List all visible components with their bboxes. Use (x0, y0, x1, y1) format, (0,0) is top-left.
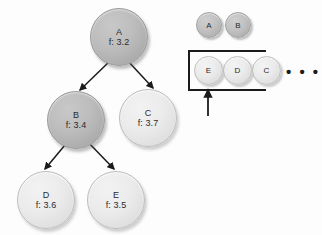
explored-chip-b[interactable]: B (225, 12, 251, 38)
edge-a-b (80, 60, 111, 90)
tree-node-d[interactable]: D f: 3.6 (17, 171, 75, 229)
queue-box-top-edge (188, 50, 266, 52)
tree-node-a[interactable]: A f: 3.2 (90, 8, 148, 66)
tree-node-e-label: E (113, 190, 119, 200)
frontier-chip-d[interactable]: D (223, 56, 252, 85)
tree-node-e[interactable]: E f: 3.5 (87, 171, 145, 229)
tree-node-e-fvalue: f: 3.5 (106, 200, 127, 210)
queue-box-bottom-edge (188, 89, 266, 91)
tree-node-c-label: C (145, 108, 152, 118)
explored-chip-a-label: A (206, 21, 211, 30)
tree-node-c-fvalue: f: 3.7 (138, 118, 159, 128)
tree-node-b[interactable]: B f: 3.4 (47, 91, 105, 149)
explored-chip-a[interactable]: A (196, 12, 222, 38)
tree-node-b-label: B (73, 110, 79, 120)
tree-node-b-fvalue: f: 3.4 (66, 120, 87, 130)
frontier-chip-c[interactable]: C (252, 56, 281, 85)
explored-chip-b-label: B (235, 21, 240, 30)
tree-node-d-fvalue: f: 3.6 (36, 200, 57, 210)
diagram-canvas: A f: 3.2 B f: 3.4 C f: 3.7 D f: 3.6 E f:… (0, 0, 322, 235)
tree-node-d-label: D (43, 190, 50, 200)
frontier-chip-d-label: D (235, 66, 241, 75)
frontier-ellipsis: • • • (286, 64, 320, 79)
queue-box-left-edge (188, 50, 190, 91)
edge-a-c (127, 60, 153, 88)
tree-node-a-label: A (116, 27, 122, 37)
frontier-chip-e[interactable]: E (194, 56, 223, 85)
tree-node-c[interactable]: C f: 3.7 (119, 89, 177, 147)
tree-node-a-fvalue: f: 3.2 (109, 37, 130, 47)
frontier-chip-c-label: C (264, 66, 270, 75)
frontier-chip-e-label: E (206, 66, 211, 75)
